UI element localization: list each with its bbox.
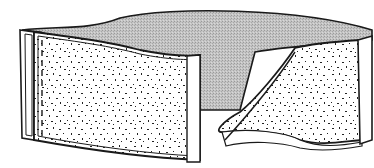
band-left-edge-inner: [25, 34, 32, 136]
band-panel-right-edge: [187, 55, 200, 162]
band-right-edge: [358, 36, 372, 144]
band-illustration: [0, 0, 374, 168]
